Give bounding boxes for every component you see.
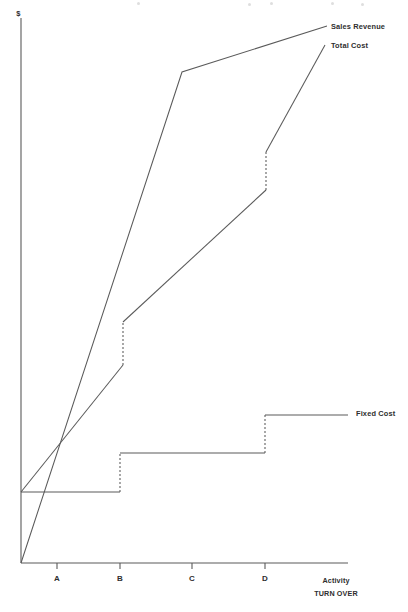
x-tick-label-b: B [117, 574, 123, 583]
series-label-fixed-cost: Fixed Cost [356, 409, 396, 418]
x-axis-ticks: ABCD [54, 563, 268, 583]
series-sales-revenue-segment-0 [21, 26, 327, 563]
x-tick-label-c: C [189, 574, 195, 583]
x-axis-label-activity: Activity [322, 576, 349, 585]
break-even-chart: ABCD $ Activity TURN OVER Sales RevenueT… [0, 0, 408, 612]
series-labels-group: Sales RevenueTotal CostFixed Cost [331, 22, 396, 418]
y-axis-label: $ [16, 9, 21, 18]
series-total-cost-segment-2 [266, 45, 325, 152]
x-axis-label-turnover: TURN OVER [314, 589, 358, 598]
series-total-cost-segment-1 [123, 190, 266, 322]
series-group [21, 26, 348, 563]
x-tick-label-d: D [262, 574, 268, 583]
x-tick-label-a: A [54, 574, 60, 583]
chart-canvas: ABCD $ Activity TURN OVER Sales RevenueT… [0, 0, 408, 612]
series-label-sales-revenue: Sales Revenue [331, 22, 385, 31]
page-artifact-marks [0, 0, 408, 10]
axis-labels-group: $ Activity TURN OVER [16, 9, 358, 598]
series-label-total-cost: Total Cost [331, 41, 368, 50]
series-total-cost-segment-0 [21, 365, 123, 492]
axes-group: ABCD [21, 18, 348, 583]
